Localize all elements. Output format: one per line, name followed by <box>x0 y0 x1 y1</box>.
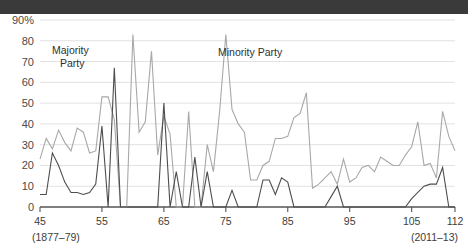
y-tick-label: 40 <box>22 118 34 130</box>
x-tick-label: 112 <box>447 215 464 227</box>
y-tick-label: 80 <box>22 35 34 47</box>
majority-party-annotation-line1: Majority <box>52 44 90 56</box>
y-tick-label: 0 <box>28 201 34 213</box>
y-tick-label: 70 <box>22 56 34 68</box>
y-tick-label: 50 <box>22 97 34 109</box>
x-tick-label: 105 <box>403 215 421 227</box>
series-line-minority-party <box>40 35 455 207</box>
y-tick-label: 60 <box>22 76 34 88</box>
y-tick-label: 10 <box>22 180 34 192</box>
line-chart: 90%80706050403020100455565758595105112(1… <box>0 14 468 250</box>
x-axis-end-era: (2011–13) <box>411 231 458 243</box>
x-axis-start-era: (1877–79) <box>32 231 80 243</box>
x-tick-label: 75 <box>220 215 232 227</box>
y-tick-label: 20 <box>22 159 34 171</box>
cropped-header-bar <box>0 0 468 14</box>
x-tick-label: 55 <box>96 215 108 227</box>
x-tick-label: 95 <box>344 215 356 227</box>
chart-plot-area: 90%80706050403020100455565758595105112(1… <box>0 14 468 250</box>
x-tick-label: 85 <box>282 215 294 227</box>
y-tick-label: 30 <box>22 139 34 151</box>
minority-party-annotation: Minority Party <box>218 46 283 58</box>
x-tick-label: 65 <box>158 215 170 227</box>
majority-party-annotation-line2: Party <box>60 57 85 69</box>
x-tick-label: 45 <box>34 215 46 227</box>
y-tick-label: 90% <box>12 14 34 26</box>
chart-screenshot: 90%80706050403020100455565758595105112(1… <box>0 0 468 250</box>
